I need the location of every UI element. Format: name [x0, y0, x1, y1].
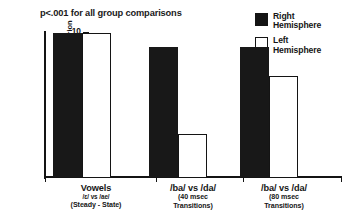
- bar-right-hemisphere-group-1: [53, 33, 82, 177]
- bar-left-hemisphere-group-2: [178, 134, 207, 177]
- bar-right-hemisphere-group-3: [240, 47, 269, 177]
- group-label-line2: (80 msec: [224, 193, 344, 202]
- group-label-line3: Transitions): [224, 202, 344, 211]
- bar-left-hemisphere-group-1: [82, 33, 111, 177]
- x-tick-1: [45, 176, 46, 182]
- bar-right-hemisphere-group-2: [149, 47, 178, 177]
- legend-label-right-hemisphere: Right Hemisphere: [273, 12, 321, 30]
- plot-area: Number of Subjects Reaching Criterion 02…: [45, 33, 342, 177]
- group-label-3: /ba/ vs /da/(80 msecTransitions): [224, 183, 344, 210]
- bar-chart-figure: p<.001 for all group comparisons Right H…: [0, 0, 349, 218]
- legend-swatch-filled-icon: [255, 13, 268, 26]
- bar-left-hemisphere-group-3: [269, 76, 298, 177]
- chart-title: p<.001 for all group comparisons: [40, 8, 182, 18]
- x-tick-4: [341, 176, 342, 182]
- legend-label-line2: Hemisphere: [273, 21, 321, 30]
- legend-item-right-hemisphere: Right Hemisphere: [255, 12, 349, 30]
- group-label-line1: /ba/ vs /da/: [224, 183, 344, 193]
